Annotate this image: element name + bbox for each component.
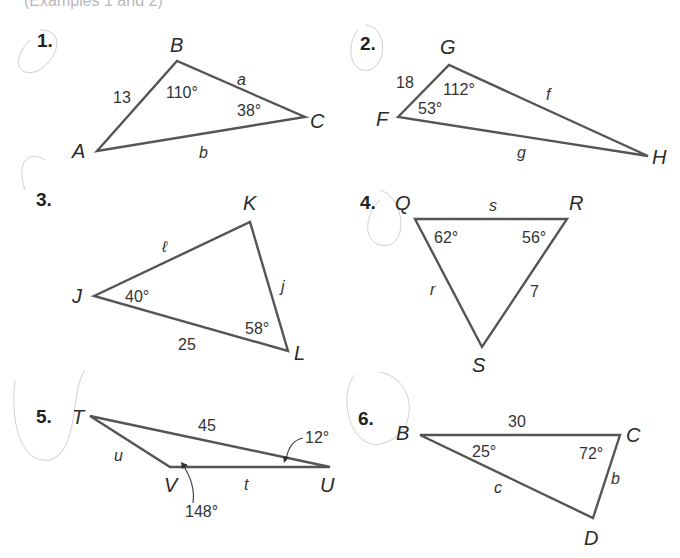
side-label: c <box>494 479 502 496</box>
angle-label: 148° <box>185 503 218 520</box>
angle-pointer-arrow <box>183 465 194 503</box>
vertex-label: H <box>652 146 667 168</box>
angle-label: 40° <box>125 288 149 305</box>
side-label: r <box>430 281 436 298</box>
side-label: b <box>199 144 208 161</box>
vertex-label: J <box>71 285 83 307</box>
vertex-label: K <box>243 192 258 214</box>
side-label: b <box>611 470 620 487</box>
side-label: f <box>546 86 552 103</box>
side-label: 7 <box>530 283 539 300</box>
vertex-label: U <box>320 474 335 496</box>
arrowhead-icon <box>283 456 289 463</box>
vertex-label: L <box>294 342 305 364</box>
vertex-label: C <box>626 424 641 446</box>
vertex-label: Q <box>395 192 411 214</box>
side-label: 25 <box>178 336 196 353</box>
angle-pointer-arrow <box>286 438 303 460</box>
problem-number: 6. <box>358 408 374 429</box>
problem-4: 4. Q R S s r 7 62° 56° <box>360 192 583 376</box>
problem-3: 3. J K L ℓ j 25 40° 58° <box>36 189 305 364</box>
vertex-label: T <box>72 406 86 428</box>
problem-number: 1. <box>37 30 53 51</box>
angle-label: 112° <box>443 81 475 98</box>
triangle-abc <box>97 61 305 151</box>
side-label: 13 <box>113 89 131 106</box>
side-label: a <box>237 71 246 88</box>
angle-label: 72° <box>579 445 603 462</box>
angle-label: 25° <box>472 443 496 460</box>
problem-number: 2. <box>360 33 376 54</box>
angle-label: 62° <box>434 229 458 246</box>
side-label: j <box>279 278 285 295</box>
triangle-worksheet: 1. A B C 13 a b 110° 38° 2. F G H 18 f g… <box>0 0 680 558</box>
vertex-label: D <box>584 527 598 549</box>
angle-label: 38° <box>237 102 261 119</box>
angle-label: 53° <box>418 100 442 117</box>
side-label: 45 <box>198 417 216 434</box>
vertex-label: F <box>376 108 390 130</box>
angle-label: 56° <box>522 229 546 246</box>
side-label: t <box>244 476 249 493</box>
angle-label: 12° <box>305 429 329 446</box>
vertex-label: B <box>396 422 409 444</box>
side-label: g <box>517 144 526 161</box>
side-label: 30 <box>508 413 526 430</box>
side-label: ℓ <box>161 238 168 255</box>
problem-6: 6. B C D 30 b c 25° 72° <box>358 408 641 549</box>
vertex-label: V <box>164 474 179 496</box>
side-label: 18 <box>396 74 414 91</box>
side-label: u <box>114 447 123 464</box>
vertex-label: A <box>71 140 85 162</box>
problem-number: 5. <box>36 406 52 427</box>
pencil-mark <box>22 156 45 190</box>
angle-label: 110° <box>166 84 198 101</box>
angle-label: 58° <box>245 320 269 337</box>
vertex-label: B <box>170 34 183 56</box>
problem-number: 3. <box>36 189 52 210</box>
vertex-label: C <box>310 110 325 132</box>
problem-5: 5. T V U 45 u t 12° 148° <box>36 406 335 520</box>
vertex-label: S <box>472 354 486 376</box>
problem-1: 1. A B C 13 a b 110° 38° <box>37 30 325 162</box>
vertex-label: G <box>440 36 456 58</box>
problem-number: 4. <box>360 192 376 213</box>
problem-2: 2. F G H 18 f g 112° 53° <box>360 33 667 168</box>
vertex-label: R <box>569 192 583 214</box>
side-label: s <box>489 197 497 214</box>
